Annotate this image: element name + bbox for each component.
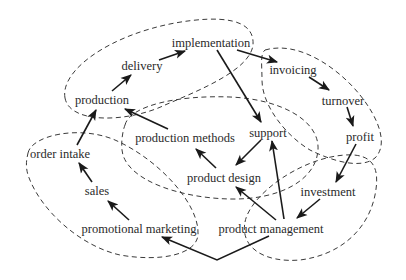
edge-sales-order-intake <box>79 163 92 182</box>
node-turnover: turnover <box>322 94 365 108</box>
edge-implementation-support <box>217 50 261 122</box>
node-order-intake: order intake <box>30 147 90 161</box>
node-delivery: delivery <box>122 59 164 73</box>
node-sales: sales <box>85 184 109 198</box>
node-promotional-marketing: promotional marketing <box>82 222 198 236</box>
node-invoicing: invoicing <box>269 63 317 77</box>
node-product-design: product design <box>187 171 262 185</box>
edge-implementation-invoicing <box>237 50 277 62</box>
edge-order-intake-production <box>77 110 96 145</box>
edge-production-delivery <box>112 75 131 91</box>
edge-invoicing-turnover <box>309 77 329 90</box>
edge-product-management-support <box>272 141 284 219</box>
edge-product-design-production-methods <box>196 149 216 168</box>
edge-investment-product-management <box>297 199 320 218</box>
edge-support-product-design <box>236 140 261 165</box>
edge-turnover-profit <box>347 107 353 126</box>
edge-production-methods-production <box>125 109 168 129</box>
cause-effect-diagram: implementation delivery production invoi… <box>0 0 406 280</box>
node-production-methods: production methods <box>135 131 235 145</box>
node-product-management: product management <box>218 222 324 236</box>
node-support: support <box>249 126 287 140</box>
node-profit: profit <box>346 130 374 144</box>
node-production: production <box>75 93 130 107</box>
node-investment: investment <box>301 185 356 199</box>
edge-profit-investment <box>336 144 356 182</box>
node-implementation: implementation <box>172 36 251 50</box>
edge-product-management-product-design <box>236 187 276 220</box>
edge-delivery-implementation <box>159 51 185 60</box>
edge-promotional-marketing-sales <box>108 201 129 220</box>
